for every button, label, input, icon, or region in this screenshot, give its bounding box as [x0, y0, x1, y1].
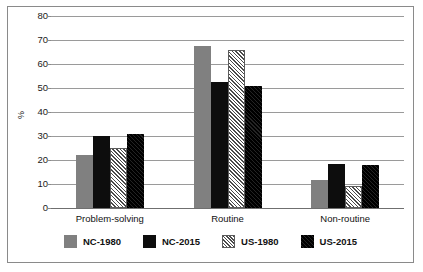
legend-label: NC-2015: [162, 236, 200, 247]
x-axis-line: [51, 208, 404, 209]
chart-legend: NC-1980NC-2015US-1980US-2015: [8, 235, 413, 248]
bar-groups: [51, 16, 404, 208]
legend-swatch-icon: [301, 235, 314, 248]
x-axis-category-labels: Problem-solvingRoutineNon-routine: [51, 213, 404, 224]
y-axis-tick-label: 30: [22, 131, 48, 141]
chart-frame: % 01020304050607080 Problem-solvingRouti…: [7, 6, 414, 263]
bar: [245, 86, 262, 208]
bar: [76, 155, 93, 208]
bar-group: [169, 16, 287, 208]
bar-group: [286, 16, 404, 208]
legend-item[interactable]: US-2015: [301, 235, 358, 248]
legend-item[interactable]: US-1980: [222, 235, 279, 248]
y-axis-tick-labels: 01020304050607080: [22, 16, 48, 208]
legend-swatch-icon: [64, 235, 77, 248]
bar-group: [51, 16, 169, 208]
plot-area: [51, 16, 404, 208]
bar: [194, 46, 211, 208]
x-axis-category-label: Routine: [169, 213, 287, 224]
x-axis-category-label: Problem-solving: [51, 213, 169, 224]
bar: [228, 50, 245, 208]
bar: [362, 165, 379, 208]
legend-label: NC-1980: [83, 236, 121, 247]
bar: [110, 148, 127, 208]
bar: [345, 186, 362, 208]
tick-mark: [47, 208, 51, 209]
bar: [127, 134, 144, 208]
bar: [211, 82, 228, 208]
y-axis-tick-label: 70: [22, 35, 48, 45]
x-axis-category-label: Non-routine: [286, 213, 404, 224]
y-axis-tick-label: 20: [22, 155, 48, 165]
legend-swatch-icon: [143, 235, 156, 248]
y-axis-tick-label: 60: [22, 59, 48, 69]
y-axis-tick-label: 0: [22, 203, 48, 213]
bar: [328, 164, 345, 208]
bar: [311, 180, 328, 208]
legend-label: US-1980: [241, 236, 279, 247]
legend-label: US-2015: [320, 236, 358, 247]
bar: [93, 136, 110, 208]
legend-item[interactable]: NC-1980: [64, 235, 121, 248]
y-axis-tick-label: 50: [22, 83, 48, 93]
y-axis-tick-label: 80: [22, 11, 48, 21]
y-axis-tick-label: 40: [22, 107, 48, 117]
y-axis-tick-label: 10: [22, 179, 48, 189]
chart-plot-wrapper: % 01020304050607080 Problem-solvingRouti…: [8, 7, 413, 262]
legend-item[interactable]: NC-2015: [143, 235, 200, 248]
legend-swatch-icon: [222, 235, 235, 248]
